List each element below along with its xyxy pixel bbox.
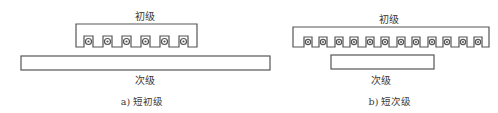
- panel-b-secondary-label: 次级: [371, 72, 391, 87]
- panel-b-primary-label: 初级: [379, 11, 399, 26]
- panel-a-secondary: [21, 56, 270, 70]
- panel-a-primary-label: 初级: [135, 8, 155, 23]
- panel-b-secondary: [331, 55, 434, 69]
- panel-a-secondary-label: 次级: [135, 72, 155, 87]
- panel-b-caption: b) 短次级: [369, 94, 412, 108]
- panel-a-caption: a) 短初级: [121, 94, 163, 108]
- panel-a-primary: [76, 24, 197, 47]
- panel-a-coils: [86, 39, 187, 45]
- panel-b-coils: [305, 39, 480, 44]
- linear-motor-diagram: [0, 0, 498, 113]
